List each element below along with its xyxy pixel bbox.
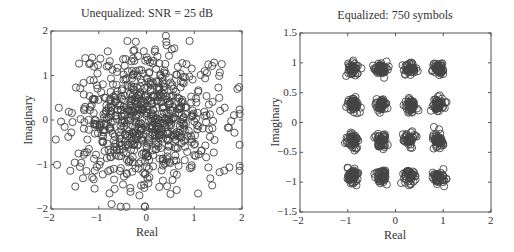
equalized-panel: Equalized: 750 symbols Real Imaginary −2… (257, 0, 514, 252)
unequalized-panel: Unequalized: SNR = 25 dB Real Imaginary … (0, 0, 257, 252)
y-tick-label: −1 (36, 158, 48, 170)
plot-frame (300, 33, 491, 212)
x-tick-label: 1 (440, 214, 446, 226)
y-tick-label: 0 (292, 116, 298, 128)
y-axis-label: Imaginary (21, 95, 36, 144)
x-axis-label: Real (384, 228, 406, 243)
x-tick-label: 2 (488, 214, 494, 226)
y-tick-label: −2 (36, 202, 48, 214)
x-tick-label: −1 (340, 214, 352, 226)
unequalized-plot (0, 0, 257, 252)
data-points (341, 57, 450, 190)
x-tick-label: 1 (191, 211, 197, 223)
y-tick-label: 2 (43, 24, 49, 36)
y-tick-label: 1.5 (283, 26, 297, 38)
x-tick-label: −1 (91, 211, 103, 223)
data-points (52, 32, 243, 210)
y-axis-label: Imaginary (268, 97, 283, 146)
y-tick-label: 1 (292, 56, 298, 68)
x-tick-label: 2 (239, 211, 245, 223)
y-tick-label: 1 (43, 69, 49, 81)
x-tick-label: 0 (144, 211, 150, 223)
y-tick-label: −1 (285, 175, 297, 187)
y-tick-label: 0 (43, 113, 49, 125)
y-tick-label: −1.5 (277, 205, 297, 217)
y-tick-label: −0.5 (277, 145, 297, 157)
x-tick-label: 0 (393, 214, 399, 226)
x-axis-label: Real (136, 225, 158, 240)
y-tick-label: 0.5 (283, 86, 297, 98)
